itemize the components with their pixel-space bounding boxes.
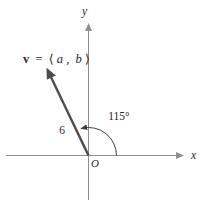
component-a: a <box>57 52 63 66</box>
diagram-canvas: x y O 115° 6 v = ⟨ a , b ⟩ <box>0 0 199 207</box>
x-axis-label: x <box>190 149 197 161</box>
equals-sign: = <box>32 52 45 66</box>
magnitude-label: 6 <box>59 124 65 136</box>
origin-label: O <box>91 157 99 169</box>
comma-separator: , <box>66 52 72 66</box>
vector-name-label: v = ⟨ a , b ⟩ <box>23 52 90 66</box>
vector-angle-diagram: x y O 115° 6 v = ⟨ a , b ⟩ <box>0 0 199 207</box>
open-angle-bracket: ⟨ <box>49 52 54 66</box>
y-axis-label: y <box>81 5 88 18</box>
vector-symbol: v <box>23 52 30 66</box>
close-angle-bracket: ⟩ <box>85 52 90 66</box>
component-b: b <box>76 52 82 66</box>
vector-arrow <box>50 75 89 156</box>
angle-label: 115° <box>108 110 130 122</box>
